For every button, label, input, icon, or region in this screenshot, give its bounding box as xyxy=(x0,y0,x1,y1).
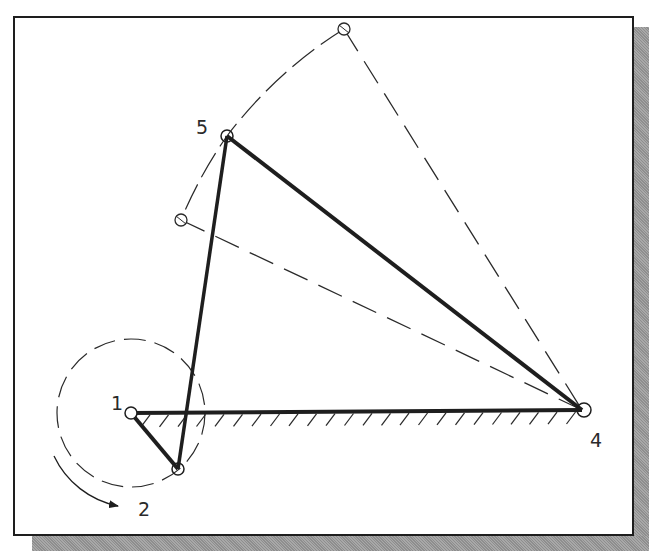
rocker-extreme-lower xyxy=(181,220,582,410)
label-joint-5: 5 xyxy=(196,116,208,138)
rotation-direction-arrow xyxy=(54,456,118,506)
joint-1 xyxy=(125,407,137,419)
label-joint-2: 2 xyxy=(138,498,150,520)
crank-link xyxy=(131,413,178,469)
ground-link xyxy=(131,410,582,413)
label-joint-4: 4 xyxy=(590,429,602,451)
label-joint-1: 1 xyxy=(111,392,123,414)
rocker-extreme-upper xyxy=(344,29,582,410)
diagram-canvas: 1 2 4 5 xyxy=(0,0,662,553)
rocker-link xyxy=(227,136,582,410)
linkage-drawing: 1 2 4 5 xyxy=(0,0,662,553)
